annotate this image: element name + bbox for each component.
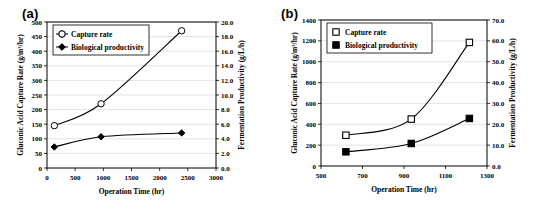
- chart-svg-a: 0501001502002503003504004505000.02.04.06…: [0, 0, 272, 213]
- y-tick-label-right: 4.0: [221, 135, 230, 143]
- y-tick-label-left: 50: [35, 150, 43, 158]
- y-tick-label-left: 0: [313, 163, 317, 171]
- data-point-marker: [466, 39, 472, 45]
- y-tick-label-left: 0: [39, 165, 43, 173]
- x-tick-label: 500: [316, 172, 327, 180]
- legend-label-2: Biological productivity: [71, 43, 144, 52]
- y-tick-label-left: 350: [32, 62, 43, 70]
- x-tick-label: 900: [399, 172, 410, 180]
- x-tick-label: 3000: [209, 174, 224, 182]
- y-tick-label-left: 1400: [302, 17, 317, 25]
- y-tick-label-left: 100: [32, 135, 43, 143]
- y-tick-label-left: 200: [32, 106, 43, 114]
- y-tick-label-left: 600: [306, 100, 317, 108]
- y-tick-label-right: 20.0: [221, 19, 234, 27]
- panel-label-a: (a): [22, 6, 39, 21]
- x-tick-label: 1300: [480, 172, 495, 180]
- x-tick-label: 500: [70, 174, 81, 182]
- y-tick-label-right: 16.0: [221, 48, 234, 56]
- y-tick-label-right: 14.0: [221, 62, 234, 70]
- y-axis-title-left: Gluconic Acid Capture Rate (g/m³/hr): [290, 32, 299, 154]
- chart-svg-b: 02004006008001000120014000.010.020.030.0…: [271, 0, 543, 213]
- x-tick-label: 700: [357, 172, 368, 180]
- y-tick-label-left: 1000: [302, 58, 317, 66]
- y-tick-label-left: 250: [32, 92, 43, 100]
- y-tick-label-right: 30.0: [492, 100, 505, 108]
- y-tick-label-left: 450: [32, 33, 43, 41]
- y-tick-label-right: 6.0: [221, 121, 230, 129]
- y-tick-label-right: 0.0: [492, 163, 501, 171]
- y-tick-label-left: 800: [306, 79, 317, 87]
- y-tick-label-left: 400: [306, 121, 317, 129]
- legend-label-2: Biological productivity: [345, 41, 418, 50]
- data-point-marker: [59, 31, 65, 37]
- y-tick-label-right: 40.0: [492, 79, 505, 87]
- y-tick-label-right: 10.0: [221, 92, 234, 100]
- y-tick-label-right: 2.0: [221, 150, 230, 158]
- y-tick-label-right: 8.0: [221, 106, 230, 114]
- data-point-marker: [333, 29, 339, 35]
- y-tick-label-right: 50.0: [492, 58, 505, 66]
- y-tick-label-right: 10.0: [492, 142, 505, 150]
- y-tick-label-left: 200: [306, 142, 317, 150]
- y-tick-label-right: 60.0: [492, 37, 505, 45]
- data-point-marker: [343, 132, 349, 138]
- y-tick-label-right: 18.0: [221, 33, 234, 41]
- data-point-marker: [408, 140, 414, 146]
- y-axis-title-right: Fermentation Productivity (g/L/h): [237, 40, 246, 150]
- data-point-marker: [343, 149, 349, 155]
- data-point-marker: [408, 116, 414, 122]
- data-point-marker: [178, 28, 184, 34]
- y-axis-title-left: Gluconic Acid Capture Rate (g/m³/hr): [16, 34, 25, 156]
- x-tick-label: 1500: [125, 174, 140, 182]
- y-tick-label-right: 20.0: [492, 121, 505, 129]
- data-point-marker: [98, 101, 104, 107]
- y-tick-label-left: 300: [32, 77, 43, 85]
- y-tick-label-left: 150: [32, 121, 43, 129]
- x-axis-title: Operation Time (hr): [99, 187, 165, 196]
- x-tick-label: 1100: [439, 172, 453, 180]
- x-tick-label: 0: [45, 174, 49, 182]
- legend-label-1: Capture rate: [345, 28, 387, 37]
- panel-label-b: (b): [281, 6, 298, 21]
- data-point-marker: [178, 130, 184, 136]
- chart-panel-b: (b)02004006008001000120014000.010.020.03…: [271, 0, 543, 213]
- y-tick-label-left: 1200: [302, 37, 317, 45]
- y-tick-label-right: 70.0: [492, 17, 505, 25]
- data-point-marker: [333, 42, 339, 48]
- y-tick-label-right: 12.0: [221, 77, 234, 85]
- data-point-marker: [466, 115, 472, 121]
- y-tick-label-left: 400: [32, 48, 43, 56]
- x-tick-label: 2000: [153, 174, 168, 182]
- legend-label-1: Capture rate: [71, 30, 113, 39]
- data-point-marker: [51, 144, 57, 150]
- data-point-marker: [51, 122, 57, 128]
- x-tick-label: 2500: [181, 174, 196, 182]
- x-tick-label: 1000: [96, 174, 111, 182]
- chart-panel-a: (a)0501001502002503003504004505000.02.04…: [0, 0, 272, 213]
- figure-two-panel-line-charts: (a)0501001502002503003504004505000.02.04…: [0, 0, 543, 213]
- series-line-2: [54, 133, 181, 147]
- x-axis-title: Operation Time (hr): [371, 185, 437, 194]
- y-tick-label-right: 0.0: [221, 165, 230, 173]
- y-axis-title-right: Fermentation Productivity (g/L/h): [508, 38, 517, 148]
